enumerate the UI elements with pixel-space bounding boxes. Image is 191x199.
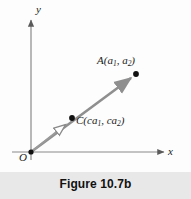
point-marker-c <box>69 115 75 121</box>
figure-caption: Figure 10.7b <box>0 177 191 191</box>
diagram-area: A(a1, a2) C(ca1, ca2) y x O <box>0 0 191 172</box>
point-label-a-mid: , a <box>117 54 128 66</box>
point-label-c: C(ca1, ca2) <box>76 115 124 128</box>
point-label-c-end: ) <box>121 114 125 126</box>
point-label-c-name: C(ca <box>76 114 97 126</box>
figure-container: A(a1, a2) C(ca1, ca2) y x O Figure 10.7b <box>0 0 191 199</box>
vector-oc <box>31 125 65 152</box>
point-label-a: A(a1, a2) <box>97 55 135 68</box>
point-label-a-name: A(a <box>97 54 113 66</box>
vector-diagram <box>0 0 191 172</box>
point-marker-a <box>133 71 139 77</box>
point-label-c-mid: , ca <box>101 114 117 126</box>
point-marker-origin <box>28 149 33 154</box>
y-axis-label: y <box>36 4 41 15</box>
point-label-a-end: ) <box>131 54 135 66</box>
x-axis-label: x <box>168 146 173 157</box>
origin-label: O <box>19 152 27 163</box>
